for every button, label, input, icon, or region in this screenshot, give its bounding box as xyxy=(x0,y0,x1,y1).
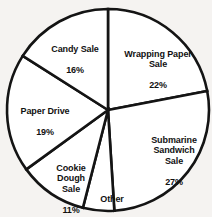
pie-slice-group xyxy=(7,9,209,211)
pie-slice-submarine[interactable] xyxy=(108,91,209,211)
pie-chart: Wrapping Paper Sale 22% Submarine Sandwi… xyxy=(0,0,212,217)
pie-chart-canvas xyxy=(0,0,212,217)
